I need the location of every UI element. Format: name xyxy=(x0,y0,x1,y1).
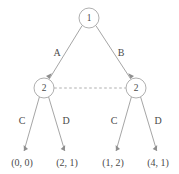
edge-left-to-leaf1 xyxy=(24,97,39,151)
payoff-leaf-3: (1, 2) xyxy=(102,157,124,169)
payoff-leaf-4: (4, 1) xyxy=(147,157,169,169)
tree-canvas: 1 2 2 A B C D C D (0, 0) (2, 1) (1, 2) (… xyxy=(0,0,179,174)
node-player2-left-label: 2 xyxy=(42,83,47,93)
node-root-label: 1 xyxy=(87,13,92,23)
node-root: 1 xyxy=(79,8,99,28)
game-tree-diagram: 1 2 2 A B C D C D (0, 0) (2, 1) (1, 2) (… xyxy=(0,0,179,174)
edge-label-c-left: C xyxy=(19,115,26,126)
edge-label-d-left: D xyxy=(62,115,69,126)
edge-label-a: A xyxy=(53,47,61,58)
edge-label-d-right: D xyxy=(154,115,161,126)
payoff-leaf-1: (0, 0) xyxy=(11,157,33,169)
node-player2-left: 2 xyxy=(34,78,54,98)
edge-group-left-node xyxy=(24,97,66,151)
edge-label-b: B xyxy=(118,47,125,58)
edge-root-to-right xyxy=(96,26,131,79)
edge-label-c-right: C xyxy=(111,115,118,126)
edge-right-to-leaf3 xyxy=(116,97,131,151)
edge-group-right-node xyxy=(116,97,158,151)
node-player2-right-label: 2 xyxy=(134,83,139,93)
node-player2-right: 2 xyxy=(126,78,146,98)
payoff-leaf-2: (2, 1) xyxy=(56,157,78,169)
